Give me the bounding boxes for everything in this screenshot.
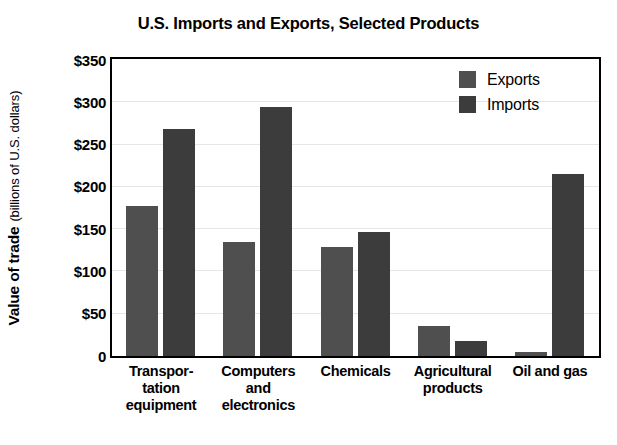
chart-legend: ExportsImports [459,67,591,117]
x-axis-category-label-line: Oil and gas [497,363,602,380]
bar-imports [260,107,292,356]
y-axis-tick-label: $150 [34,221,106,236]
y-axis-tick-label: $50 [34,306,106,321]
plot-area: ExportsImports [110,57,601,358]
bar-imports [163,129,195,356]
y-axis-label-main: Value of trade [5,226,22,325]
y-axis-tick-label: $250 [34,137,106,152]
x-axis-category-labels: Transpor-tationequipmentComputersandelec… [110,363,601,443]
y-axis-label: Value of trade(billions of U.S. dollars) [2,57,26,358]
x-axis-category-label: Agriculturalproducts [400,363,505,397]
y-axis-tick-label: $100 [34,263,106,278]
x-axis-category-label-line: Chemicals [303,363,408,380]
bar-exports [418,326,450,356]
y-axis-tick-label: $300 [34,94,106,109]
bar-imports [358,232,390,356]
legend-label: Imports [487,97,539,113]
y-axis-tick-label: $200 [34,179,106,194]
legend-item: Imports [459,92,591,117]
x-axis-category-label-line: tation [109,380,214,397]
x-axis-category-label-line: Agricultural [400,363,505,380]
bar-exports [515,352,547,356]
y-axis-tick-labels: $350$300$250$200$150$100$500 [30,0,106,445]
y-axis-tick-label: $350 [34,52,106,67]
x-axis-category-label: Oil and gas [497,363,602,380]
x-axis-category-label: Chemicals [303,363,408,380]
legend-item: Exports [459,67,591,92]
legend-swatch [459,71,476,88]
y-axis-tick-label: 0 [34,348,106,363]
legend-swatch [459,96,476,113]
x-axis-category-label-line: Computers [206,363,311,380]
x-axis-category-label: Computersandelectronics [206,363,311,414]
bar-exports [223,242,255,356]
bar-chart: U.S. Imports and Exports, Selected Produ… [0,0,617,445]
x-axis-category-label-line: and [206,380,311,397]
bar-imports [455,341,487,356]
x-axis-category-label: Transpor-tationequipment [109,363,214,414]
x-axis-category-label-line: products [400,380,505,397]
bar-exports [321,247,353,356]
bar-exports [126,206,158,356]
bar-imports [552,174,584,356]
x-axis-category-label-line: electronics [206,397,311,414]
x-axis-category-label-line: Transpor- [109,363,214,380]
y-axis-label-units: (billions of U.S. dollars) [7,90,22,221]
legend-label: Exports [487,72,540,88]
x-axis-category-label-line: equipment [109,397,214,414]
